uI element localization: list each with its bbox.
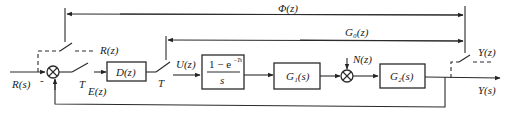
closed-loop-transfer-bracket: Φ(z) [65, 2, 465, 53]
summing-junction-1 [47, 66, 59, 78]
output-line [425, 77, 500, 78]
plant1-label: G₁(s) [286, 70, 310, 83]
sampler-switch-2 [156, 62, 170, 72]
control-label: U(z) [176, 58, 196, 71]
rz-label: R(z) [99, 44, 119, 57]
block-diagram: Φ(z) G₀(z) R(s) - R(z) T E(z) D(z) T U(z… [0, 0, 509, 116]
g0-z-label: G₀(z) [345, 26, 369, 39]
summing-junction-2 [341, 70, 353, 82]
sampler-2-label: T [158, 77, 165, 89]
output-label: Y(s) [478, 84, 496, 97]
output-sampler-dashed: Y(z) [451, 46, 496, 78]
disturbance-label: N(z) [352, 53, 372, 66]
minus-sign: - [40, 74, 44, 86]
yz-label: Y(z) [478, 46, 496, 59]
plant2-label: G₂(s) [390, 70, 414, 83]
error-label: E(z) [87, 85, 107, 98]
controller-label: D(z) [115, 66, 136, 79]
zoh-denominator: s [220, 74, 224, 86]
sampler-switch-1 [72, 63, 88, 72]
phi-z-label: Φ(z) [278, 2, 298, 15]
sampler-1-label: T [79, 78, 86, 90]
input-label: R(s) [11, 78, 31, 91]
zoh-numerator: 1 − e [209, 58, 231, 70]
zoh-exponent: −Ts [233, 57, 243, 63]
